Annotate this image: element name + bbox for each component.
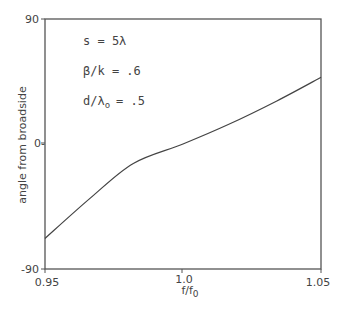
y-tick-label-neg90: -90	[21, 263, 39, 276]
x-tick-label-095: 0.95	[35, 276, 60, 289]
annotation-d: d/λo= .5	[83, 94, 145, 110]
annotation-beta: β/k = .6	[83, 64, 141, 78]
x-axis-label: f/f0	[181, 284, 198, 299]
y-axis-label: angle from broadside	[16, 86, 29, 204]
x-tick-label-105: 1.05	[306, 276, 331, 289]
chart: 90 0- -90 0.95 1.0 1.05 f/f0 angle from …	[0, 0, 345, 310]
y-tick-label-90: 90	[25, 13, 39, 26]
y-tick-label-0: 0-	[34, 137, 45, 150]
annotation-s: s = 5λ	[83, 34, 126, 48]
